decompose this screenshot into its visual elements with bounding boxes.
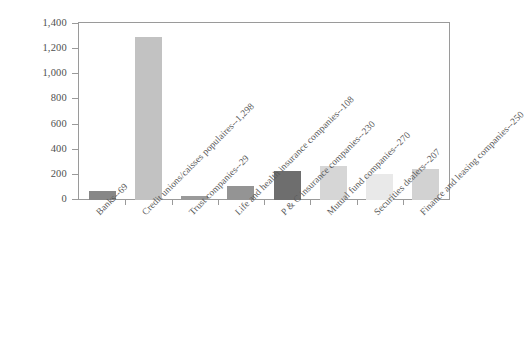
y-tick-label: 1,000 xyxy=(0,68,72,78)
y-tick-mark xyxy=(72,98,78,99)
bars-layer xyxy=(79,23,449,200)
y-tick-label: 200 xyxy=(0,169,72,179)
x-tick-mark xyxy=(357,200,358,205)
x-tick-mark xyxy=(172,200,173,205)
y-tick-mark xyxy=(72,174,78,175)
y-tick-label: 400 xyxy=(0,144,72,154)
x-tick-mark xyxy=(310,200,311,205)
y-tick-mark xyxy=(72,199,78,200)
x-tick-mark xyxy=(218,200,219,205)
y-tick-label: 600 xyxy=(0,119,72,129)
y-axis: 02004006008001,0001,2001,400 xyxy=(0,22,72,200)
y-tick-label: 0 xyxy=(0,194,72,204)
y-tick-mark xyxy=(72,73,78,74)
y-tick-mark xyxy=(72,149,78,150)
y-tick-mark xyxy=(72,124,78,125)
y-tick-label: 1,200 xyxy=(0,43,72,53)
bar[interactable] xyxy=(135,37,162,200)
x-tick-mark xyxy=(125,200,126,205)
y-tick-mark xyxy=(72,48,78,49)
x-tick-mark xyxy=(403,200,404,205)
y-tick-label: 1,400 xyxy=(0,18,72,28)
y-tick-mark xyxy=(72,23,78,24)
x-tick-mark xyxy=(264,200,265,205)
y-tick-label: 800 xyxy=(0,93,72,103)
